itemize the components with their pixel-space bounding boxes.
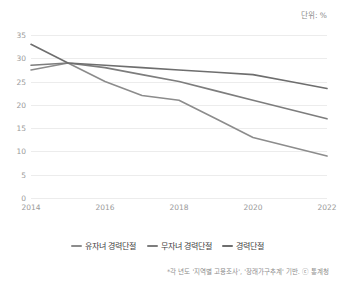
- y-axis-tick-label: 5: [4, 170, 26, 179]
- y-axis-tick-label: 30: [4, 54, 26, 63]
- legend-item[interactable]: 무자녀 경력단절: [147, 240, 213, 251]
- x-axis-tick-label: 2020: [243, 203, 262, 212]
- x-axis-tick-label: 2016: [95, 203, 114, 212]
- legend-swatch-icon: [71, 245, 82, 247]
- series-line: [31, 63, 327, 119]
- legend-item[interactable]: 경력단절: [222, 240, 264, 251]
- y-axis-tick-label: 35: [4, 31, 26, 40]
- legend-item-label: 유자녀 경력단절: [85, 240, 137, 251]
- y-axis-tick-label: 0: [4, 194, 26, 203]
- x-axis-tick-label: 2014: [21, 203, 40, 212]
- footnote: *각 년도 '지역별 고용조사', '장래가구추계' 기반. ⓒ 통계청: [167, 266, 329, 276]
- legend-swatch-icon: [222, 245, 233, 247]
- x-axis-tick-label: 2022: [317, 203, 336, 212]
- series-line: [31, 63, 327, 156]
- legend-swatch-icon: [147, 245, 158, 247]
- x-axis-tick-label: 2018: [169, 203, 188, 212]
- unit-label: 단위: %: [301, 9, 327, 20]
- legend-item-label: 무자녀 경력단절: [161, 240, 213, 251]
- y-axis-tick-label: 15: [4, 124, 26, 133]
- y-axis-tick-label: 25: [4, 77, 26, 86]
- page-title: [6, 0, 286, 12]
- chart-legend: 유자녀 경력단절무자녀 경력단절경력단절: [0, 240, 335, 251]
- gridline: [31, 198, 327, 199]
- y-axis-tick-label: 20: [4, 100, 26, 109]
- legend-item[interactable]: 유자녀 경력단절: [71, 240, 137, 251]
- y-axis-tick-label: 10: [4, 147, 26, 156]
- legend-item-label: 경력단절: [236, 240, 264, 251]
- plot-area: [31, 35, 327, 198]
- series-lines: [31, 35, 327, 198]
